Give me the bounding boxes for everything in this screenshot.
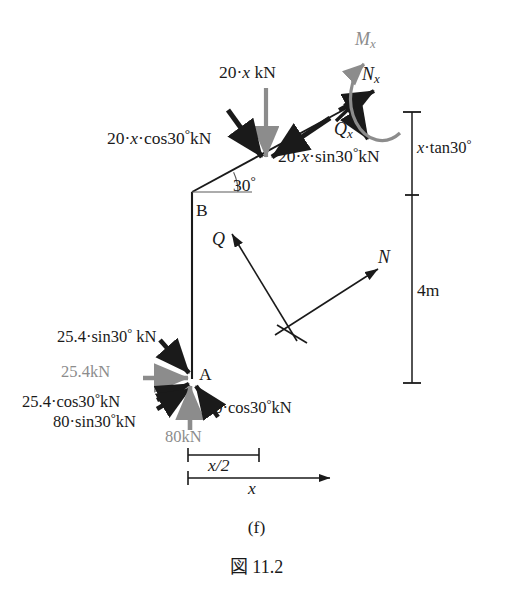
label-text: kN [254, 62, 275, 82]
label-moment-mx: Mx [355, 30, 376, 50]
label-text: 30 [233, 175, 251, 195]
label-shear-q: Q [212, 230, 225, 249]
label-text: kN [190, 128, 211, 148]
label-text: cos30 [144, 128, 185, 148]
label-text: 20 [219, 62, 237, 82]
label-text: 20 [107, 128, 125, 148]
label-text: x [248, 478, 256, 498]
shear-force-q-arrow [232, 234, 297, 341]
label-text: 25.4 [57, 327, 86, 346]
degree-symbol: ° [467, 137, 472, 151]
label-axial-nx: Nx [362, 65, 380, 85]
label-subscript: x [374, 71, 380, 86]
label-reaction-80-cos30: 80·cos30°kN [206, 398, 292, 417]
label-column-height-dimension: 4m [417, 281, 439, 299]
label-text: N [378, 247, 390, 267]
label-text: cos30 [228, 398, 267, 417]
label-text: x [130, 128, 138, 148]
label-text: tan30 [430, 138, 467, 157]
label-text: 20 [278, 146, 296, 166]
label-reaction-25-4-cos30: 25.4·cos30°kN [22, 392, 120, 411]
label-reaction-80-sin30: 80·sin30°kN [53, 412, 136, 431]
label-text: (f) [248, 517, 265, 537]
label-distributed-tangent: 20·x·sin30°kN [278, 145, 380, 165]
label-text: 25.4 [22, 392, 51, 411]
axial-force-n-arrow [275, 269, 378, 335]
figure-caption: 図 11.2 [0, 552, 513, 578]
label-subscript: x [347, 126, 353, 141]
load-normal-component-arrow [228, 110, 262, 157]
label-text: A [199, 364, 212, 384]
label-text: 図 11.2 [230, 557, 283, 577]
figure-part-label: (f) [0, 517, 513, 538]
label-text: N [362, 64, 374, 84]
label-text: x [301, 146, 309, 166]
label-point-a: A [199, 365, 212, 383]
label-text: x [242, 62, 250, 82]
label-half-span-dimension: x/2 [208, 456, 229, 474]
label-text: sin30 [91, 327, 127, 346]
label-text: kN [116, 412, 136, 431]
axial-force-nx-arrow [339, 91, 374, 110]
label-text: B [196, 200, 208, 220]
label-span-dimension: x [248, 479, 256, 497]
label-text: 80 [206, 398, 223, 417]
label-text: Q [212, 229, 225, 249]
label-vertical-rise-dimension: x·tan30° [417, 138, 472, 157]
figure-root: 20·x kN 20·x·cos30°kN 20·x·sin30°kN Mx N… [0, 0, 513, 593]
label-text: M [355, 29, 370, 49]
label-text: kN [100, 392, 120, 411]
label-text: kN [358, 146, 379, 166]
label-text: sin30 [315, 146, 353, 166]
label-text: Q [334, 119, 347, 139]
label-reaction-25-4-sin30: 25.4·sin30° kN [57, 327, 156, 346]
label-text: 25.4 [61, 362, 90, 381]
label-reaction-80-kn: 80kN [165, 428, 202, 445]
label-text: cos30 [56, 392, 95, 411]
label-axial-n: N [378, 248, 390, 267]
reaction-25-4-sin30-arrow [160, 340, 189, 373]
label-text: kN [132, 327, 156, 346]
label-distributed-normal: 20·x·cos30°kN [107, 127, 211, 147]
label-shear-qx: Qx [334, 120, 353, 140]
label-text: kN [90, 362, 110, 381]
label-text: 80 [165, 427, 182, 446]
label-subscript: x [370, 36, 376, 51]
label-distributed-total: 20·x kN [219, 63, 276, 81]
degree-symbol: ° [251, 173, 256, 188]
label-text: x/2 [208, 455, 229, 475]
label-text: 80 [53, 412, 70, 431]
label-text: 4m [417, 280, 439, 300]
label-text: sin30 [75, 412, 111, 431]
label-text: kN [272, 398, 292, 417]
label-angle-30deg: 30° [233, 174, 256, 194]
label-point-b: B [196, 201, 208, 219]
label-text: kN [182, 427, 202, 446]
label-reaction-25-4-kn: 25.4kN [61, 363, 110, 380]
